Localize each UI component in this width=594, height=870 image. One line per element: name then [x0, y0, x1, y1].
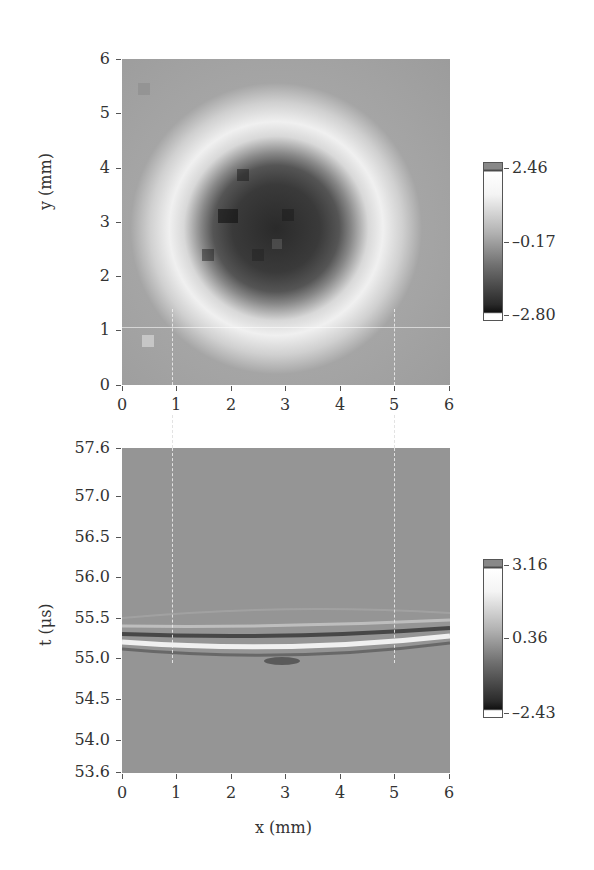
- x-tick-mark: [449, 774, 450, 779]
- y-tick-mark: [116, 59, 121, 60]
- y-tick-label: 54.5: [66, 691, 110, 707]
- y-tick-mark: [116, 276, 121, 277]
- y-tick-mark: [116, 699, 121, 700]
- x-tick-label: 4: [330, 785, 350, 801]
- x-tick-label: 0: [112, 397, 132, 413]
- x-tick-label: 6: [439, 785, 459, 801]
- bottom-y-axis-title: t (μs): [36, 603, 55, 646]
- y-tick-mark: [116, 113, 121, 114]
- x-tick-label: 0: [112, 785, 132, 801]
- top-y-axis-title: y (mm): [36, 153, 55, 210]
- cbar-tick: [504, 713, 509, 714]
- cbar-tick: [504, 565, 509, 566]
- x-tick-mark: [285, 774, 286, 779]
- x-tick-mark: [340, 774, 341, 779]
- y-tick-mark: [116, 330, 121, 331]
- y-tick-label: 0: [66, 377, 110, 393]
- dashed-marker-right: [394, 309, 395, 385]
- y-tick-label: 57.0: [66, 488, 110, 504]
- y-tick-mark: [116, 496, 121, 497]
- bottom-bscan-plot: [122, 448, 450, 773]
- top-colorbar: [483, 162, 503, 321]
- x-tick-mark: [449, 386, 450, 391]
- x-tick-mark: [176, 386, 177, 391]
- connector-right: [394, 415, 395, 448]
- y-tick-label: 3: [66, 214, 110, 230]
- x-tick-label: 3: [275, 397, 295, 413]
- y-tick-label: 55.0: [66, 650, 110, 666]
- x-tick-label: 6: [439, 397, 459, 413]
- x-tick-label: 5: [384, 397, 404, 413]
- bottom-colorbar-min: –2.43: [512, 705, 556, 721]
- y-tick-mark: [116, 577, 121, 578]
- x-tick-mark: [176, 774, 177, 779]
- y-tick-mark: [116, 618, 121, 619]
- y-tick-mark: [116, 537, 121, 538]
- y-tick-mark: [116, 658, 121, 659]
- bottom-colorbar-max: 3.16: [512, 557, 548, 573]
- bottom-colorbar: [483, 559, 503, 718]
- y-tick-label: 53.6: [66, 764, 110, 780]
- y-tick-mark: [116, 772, 121, 773]
- x-tick-mark: [231, 774, 232, 779]
- y-tick-mark: [116, 222, 121, 223]
- x-tick-label: 1: [166, 397, 186, 413]
- cbar-tick: [504, 315, 509, 316]
- x-tick-label: 3: [275, 785, 295, 801]
- top-colorbar-max: 2.46: [512, 160, 548, 176]
- y-tick-label: 4: [66, 160, 110, 176]
- x-tick-mark: [340, 386, 341, 391]
- y-tick-label: 54.0: [66, 732, 110, 748]
- x-tick-label: 4: [330, 397, 350, 413]
- y-tick-label: 57.6: [66, 440, 110, 456]
- x-tick-label: 5: [384, 785, 404, 801]
- x-tick-label: 2: [221, 397, 241, 413]
- x-tick-mark: [285, 386, 286, 391]
- y-tick-mark: [116, 448, 121, 449]
- dashed-marker-left: [172, 309, 173, 385]
- x-tick-label: 1: [166, 785, 186, 801]
- top-colorbar-mid: –0.17: [512, 234, 556, 250]
- y-tick-label: 5: [66, 105, 110, 121]
- y-tick-label: 56.0: [66, 569, 110, 585]
- x-tick-mark: [394, 386, 395, 391]
- y-tick-mark: [116, 168, 121, 169]
- cbar-tick: [504, 168, 509, 169]
- y-tick-label: 56.5: [66, 529, 110, 545]
- x-tick-mark: [394, 774, 395, 779]
- y-tick-label: 2: [66, 268, 110, 284]
- y-tick-label: 55.5: [66, 610, 110, 626]
- top-colorbar-min: –2.80: [512, 307, 556, 323]
- x-tick-label: 2: [221, 785, 241, 801]
- y-tick-mark: [116, 740, 121, 741]
- cbar-tick: [504, 242, 509, 243]
- y-tick-label: 1: [66, 322, 110, 338]
- x-axis-title: x (mm): [255, 818, 312, 837]
- x-tick-mark: [231, 386, 232, 391]
- x-tick-mark: [122, 774, 123, 779]
- x-tick-mark: [122, 386, 123, 391]
- dashed-marker-right: [394, 448, 395, 663]
- bottom-colorbar-mid: 0.36: [512, 630, 548, 646]
- y-tick-mark: [116, 385, 121, 386]
- dashed-marker-left: [172, 448, 173, 663]
- connector-left: [172, 415, 173, 448]
- cbar-tick: [504, 638, 509, 639]
- top-cscan-plot: [122, 59, 450, 385]
- y-tick-label: 6: [66, 51, 110, 67]
